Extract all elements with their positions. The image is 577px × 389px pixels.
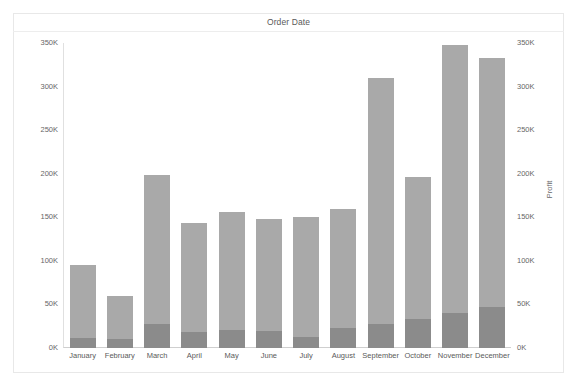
y-axis-right-tick-label: 50K <box>517 300 530 308</box>
x-axis-tick-label: March <box>139 351 176 361</box>
y-axis-left-tick-label: 250K <box>40 126 58 134</box>
bar-group[interactable] <box>368 43 394 348</box>
bar-group[interactable] <box>405 43 431 348</box>
y-axis-right-tick-label: 350K <box>517 39 535 47</box>
y-axis-right-tick-label: 0K <box>517 344 526 352</box>
visualization-canvas: Order Date Sales Profit 0K50K100K150K200… <box>0 0 577 389</box>
y-axis-left-tick-label: 200K <box>40 170 58 178</box>
bar-sales[interactable] <box>144 175 170 348</box>
bar-sales[interactable] <box>368 78 394 348</box>
bar-sales[interactable] <box>293 217 319 348</box>
x-axis-tick-label: November <box>437 351 474 361</box>
y-axis-right-ticks: 0K50K100K150K200K250K300K350K <box>517 43 557 348</box>
y-axis-left-tick-label: 150K <box>40 213 58 221</box>
bar-group[interactable] <box>256 43 282 348</box>
x-axis-tick-label: July <box>288 351 325 361</box>
bar-group[interactable] <box>330 43 356 348</box>
x-axis-tick-label: May <box>213 351 250 361</box>
y-axis-left-tick-label: 300K <box>40 83 58 91</box>
y-axis-left-ticks: 0K50K100K150K200K250K300K350K <box>20 43 58 348</box>
bar-profit[interactable] <box>219 330 245 348</box>
bar-profit[interactable] <box>144 324 170 348</box>
bar-group[interactable] <box>181 43 207 348</box>
bar-profit[interactable] <box>368 324 394 348</box>
bar-profit[interactable] <box>293 337 319 348</box>
y-axis-left-tick-label: 0K <box>49 344 58 352</box>
column-header-band: Order Date <box>13 13 564 32</box>
bar-group[interactable] <box>479 43 505 348</box>
bar-profit[interactable] <box>442 313 468 348</box>
bar-group[interactable] <box>293 43 319 348</box>
chart-title: Order Date <box>267 17 310 27</box>
y-axis-left-tick-label: 350K <box>40 39 58 47</box>
bar-profit[interactable] <box>181 332 207 348</box>
bar-sales[interactable] <box>442 45 468 348</box>
bar-group[interactable] <box>442 43 468 348</box>
bar-profit[interactable] <box>107 339 133 348</box>
bar-group[interactable] <box>107 43 133 348</box>
bar-group[interactable] <box>144 43 170 348</box>
x-axis-tick-label: August <box>325 351 362 361</box>
y-axis-right-tick-label: 150K <box>517 213 535 221</box>
y-axis-left-title: Sales <box>0 147 1 166</box>
x-axis-tick-label: September <box>362 351 399 361</box>
bar-sales[interactable] <box>256 219 282 348</box>
x-axis-labels: JanuaryFebruaryMarchAprilMayJuneJulyAugu… <box>64 351 511 365</box>
y-axis-left-tick-label: 50K <box>45 300 58 308</box>
bar-group[interactable] <box>70 43 96 348</box>
x-axis-tick-label: January <box>64 351 101 361</box>
bar-sales[interactable] <box>70 265 96 348</box>
bar-profit[interactable] <box>479 307 505 348</box>
y-axis-right-tick-label: 300K <box>517 83 535 91</box>
bar-profit[interactable] <box>70 338 96 348</box>
bar-group[interactable] <box>219 43 245 348</box>
bar-sales[interactable] <box>181 223 207 348</box>
bar-profit[interactable] <box>330 328 356 348</box>
x-axis-tick-label: February <box>101 351 138 361</box>
y-axis-left-tick-label: 100K <box>40 257 58 265</box>
bar-profit[interactable] <box>405 319 431 348</box>
y-axis-right-tick-label: 100K <box>517 257 535 265</box>
x-axis-tick-label: October <box>399 351 436 361</box>
bars-layer <box>64 43 511 348</box>
x-axis-tick-label: April <box>176 351 213 361</box>
bar-sales[interactable] <box>479 58 505 348</box>
x-axis-tick-label: December <box>474 351 511 361</box>
y-axis-right-tick-label: 200K <box>517 170 535 178</box>
bar-profit[interactable] <box>256 331 282 348</box>
x-axis-tick-label: June <box>250 351 287 361</box>
bar-sales[interactable] <box>219 212 245 348</box>
y-axis-right-tick-label: 250K <box>517 126 535 134</box>
